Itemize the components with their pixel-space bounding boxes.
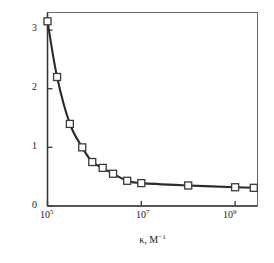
chart-plot-area [0,0,274,263]
y-tick-label-1: 1 [32,141,37,151]
data-point-marker [44,18,51,25]
data-series-markers [44,18,257,192]
data-point-marker [89,159,96,166]
x-tick-label-0: 105 [40,210,54,220]
x-tick-label-2: 109 [223,210,237,220]
y-tick-label-0: 0 [32,200,37,210]
x-tick-label-2-exponent: 9 [233,208,237,216]
x-axis-label: κ, M−1 [47,234,258,245]
x-tick-label-0-exponent: 5 [50,208,54,216]
x-tick-label-1: 107 [136,210,150,220]
data-point-marker [54,74,61,81]
data-point-marker [66,120,73,127]
data-point-marker [138,180,145,187]
y-tick-label-3: 3 [32,23,37,33]
data-point-marker [232,184,239,191]
data-point-marker [110,170,117,177]
x-axis-label-unit-base: M [149,234,158,245]
chart-figure: 0 1 2 3 105 107 109 Ccr · 106, M κ, M−1 [0,0,274,263]
x-tick-label-1-exponent: 7 [146,208,150,216]
data-point-marker [185,182,192,189]
plot-frame-rect [48,13,258,207]
data-point-marker [250,184,257,191]
x-tick-label-1-base: 10 [136,209,146,220]
plot-frame [48,13,258,207]
x-tick-label-0-base: 10 [40,209,50,220]
data-point-marker [99,164,106,171]
y-tick-label-2: 2 [32,82,37,92]
data-point-marker [79,144,86,151]
x-axis-label-unit-exponent: −1 [158,233,165,241]
data-series-line [48,21,254,188]
data-point-marker [124,177,131,184]
x-axis-label-symbol: κ, [139,234,147,245]
x-tick-label-2-base: 10 [223,209,233,220]
